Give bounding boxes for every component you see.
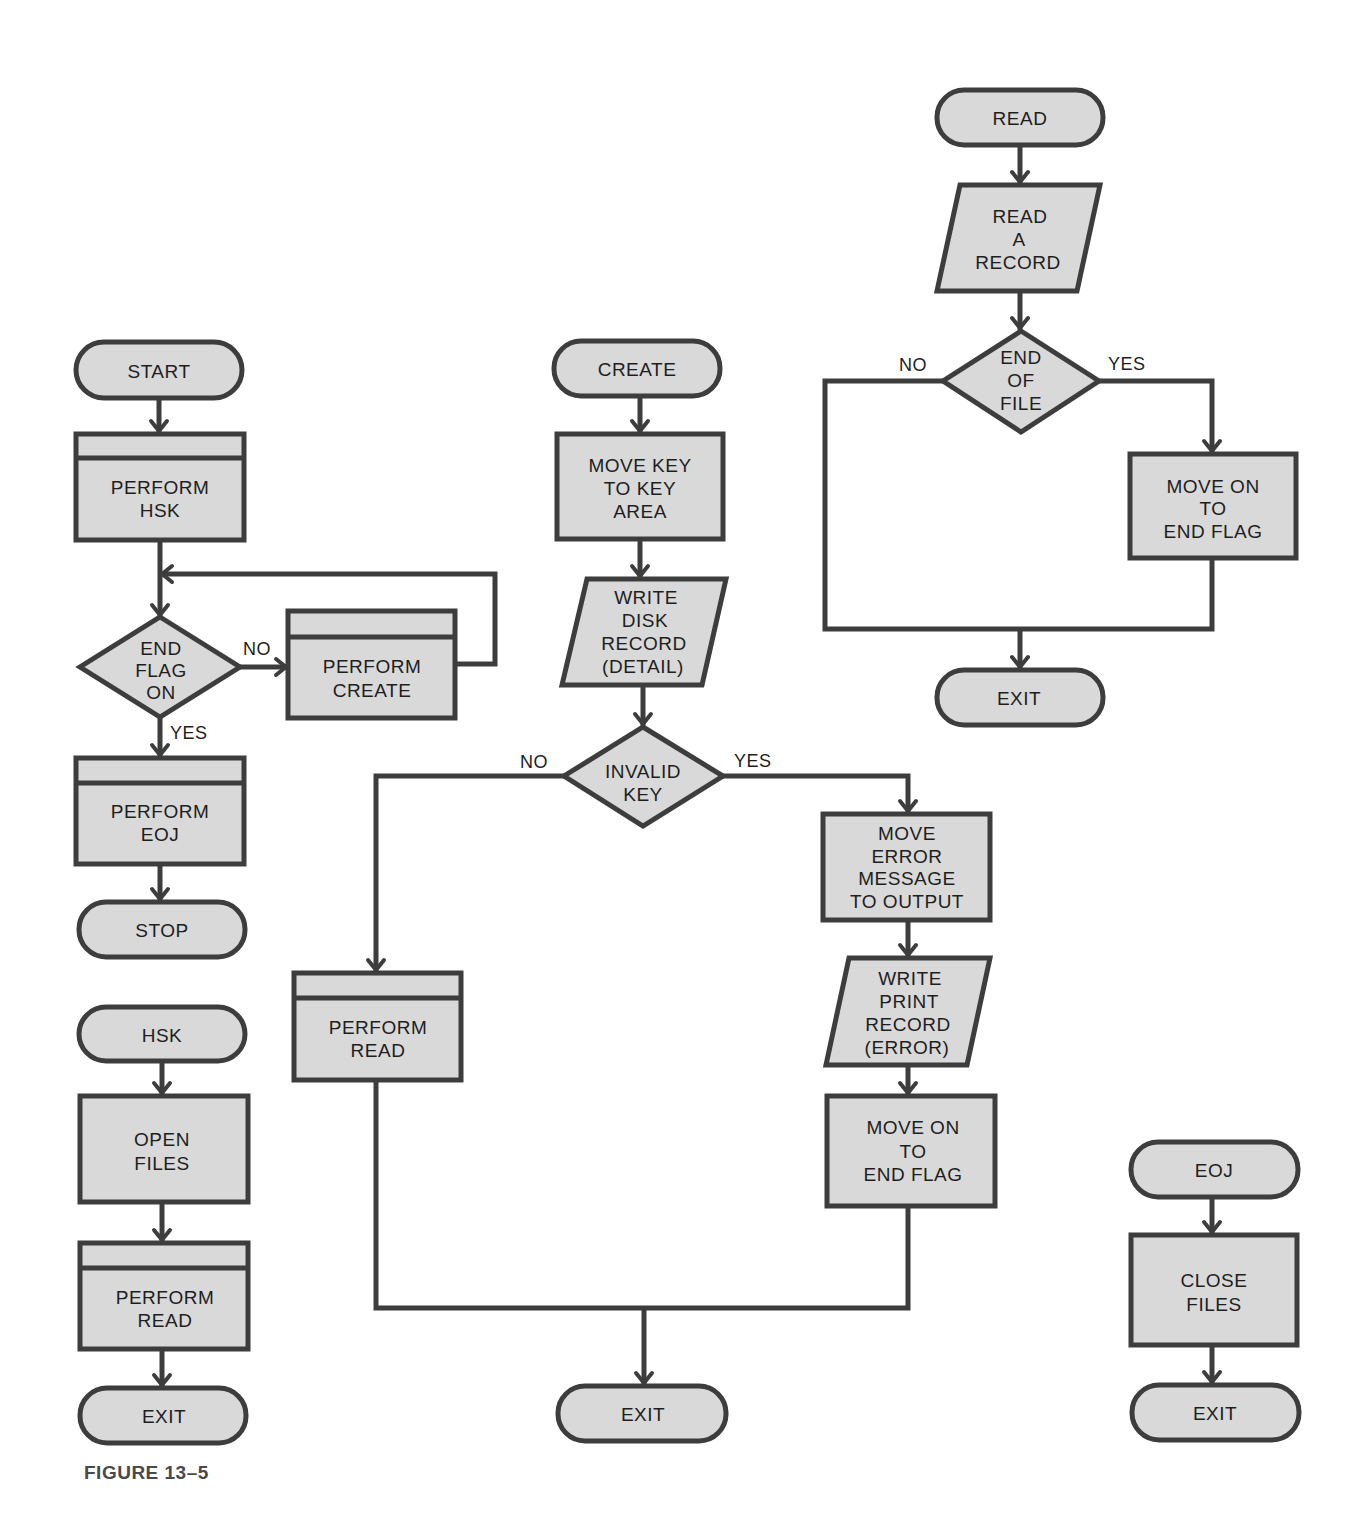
eoj-exit-label: EXIT xyxy=(1193,1403,1237,1424)
read-move-on-line-2: TO xyxy=(1199,498,1226,519)
start-label: START xyxy=(127,361,190,382)
invalid-key-decision: INVALID KEY xyxy=(564,727,723,826)
invalid-key-line-2: KEY xyxy=(623,784,663,805)
read-terminal: READ xyxy=(937,90,1103,145)
eoj-terminal: EOJ xyxy=(1131,1142,1298,1197)
end-flag-yes-label: YES xyxy=(170,723,208,743)
eoj-label: EOJ xyxy=(1195,1160,1233,1181)
hsk-perform-read-process: PERFORM READ xyxy=(80,1243,248,1349)
eoj-exit-terminal: EXIT xyxy=(1132,1385,1299,1440)
end-of-file-decision: END OF FILE xyxy=(943,331,1099,432)
read-move-on-end-flag-process: MOVE ON TO END FLAG xyxy=(1130,454,1296,558)
write-print-line-1: WRITE xyxy=(878,968,942,989)
hsk-perform-read-line-2: READ xyxy=(138,1310,193,1331)
read-record-line-2: A xyxy=(1012,229,1025,250)
invalid-key-yes-label: YES xyxy=(734,751,772,771)
move-key-process: MOVE KEY TO KEY AREA xyxy=(557,434,723,539)
create-move-on-end-flag-process: MOVE ON TO END FLAG xyxy=(827,1096,995,1206)
read-a-record-io: READ A RECORD xyxy=(937,185,1100,291)
flowchart-canvas: START PERFORM HSK END FLAG ON NO xyxy=(0,0,1372,1533)
perform-eoj-line-1: PERFORM xyxy=(111,801,210,822)
create-flow: CREATE MOVE KEY TO KEY AREA WRITE DISK R… xyxy=(294,341,995,1441)
write-disk-line-1: WRITE xyxy=(614,587,678,608)
read-move-on-line-3: END FLAG xyxy=(1163,521,1262,542)
create-perform-read-line-2: READ xyxy=(351,1040,406,1061)
move-error-line-3: MESSAGE xyxy=(858,868,955,889)
start-terminal: START xyxy=(76,342,242,398)
read-flow: READ READ A RECORD END OF FILE NO YES MO… xyxy=(825,90,1296,725)
create-label: CREATE xyxy=(598,359,677,380)
close-files-line-1: CLOSE xyxy=(1181,1270,1248,1291)
create-move-on-line-2: TO xyxy=(899,1141,926,1162)
write-print-line-4: (ERROR) xyxy=(865,1037,950,1058)
end-of-file-line-2: OF xyxy=(1007,370,1034,391)
end-of-file-no-label: NO xyxy=(899,355,927,375)
end-flag-line-1: END xyxy=(140,638,182,659)
write-print-line-3: RECORD xyxy=(865,1014,950,1035)
end-of-file-yes-label: YES xyxy=(1108,354,1146,374)
move-error-line-4: TO OUTPUT xyxy=(850,891,964,912)
end-flag-on-decision: END FLAG ON xyxy=(80,617,240,717)
perform-create-line-1: PERFORM xyxy=(323,656,422,677)
write-disk-line-4: (DETAIL) xyxy=(602,656,684,677)
create-perform-read-process: PERFORM READ xyxy=(294,973,461,1080)
open-files-process: OPEN FILES xyxy=(80,1096,248,1202)
write-disk-record-io: WRITE DISK RECORD (DETAIL) xyxy=(562,579,726,685)
create-exit-terminal: EXIT xyxy=(558,1386,726,1441)
perform-hsk-process: PERFORM HSK xyxy=(76,434,244,540)
write-disk-line-2: DISK xyxy=(622,610,668,631)
invalid-key-line-1: INVALID xyxy=(605,761,681,782)
perform-hsk-line-1: PERFORM xyxy=(111,477,210,498)
write-print-line-2: PRINT xyxy=(879,991,939,1012)
perform-eoj-process: PERFORM EOJ xyxy=(76,758,244,864)
main-flow: START PERFORM HSK END FLAG ON NO xyxy=(76,342,495,957)
create-exit-label: EXIT xyxy=(621,1404,665,1425)
hsk-label: HSK xyxy=(142,1025,183,1046)
move-error-message-process: MOVE ERROR MESSAGE TO OUTPUT xyxy=(823,814,990,920)
read-exit-terminal: EXIT xyxy=(937,670,1103,725)
invalid-key-no-label: NO xyxy=(520,752,548,772)
read-move-on-line-1: MOVE ON xyxy=(1166,476,1259,497)
hsk-flow: HSK OPEN FILES PERFORM READ EXIT xyxy=(79,1007,248,1443)
end-flag-no-label: NO xyxy=(243,639,271,659)
close-files-process: CLOSE FILES xyxy=(1131,1235,1297,1345)
write-print-record-io: WRITE PRINT RECORD (ERROR) xyxy=(826,958,990,1065)
read-exit-label: EXIT xyxy=(997,688,1041,709)
read-record-line-3: RECORD xyxy=(975,252,1060,273)
move-key-line-1: MOVE KEY xyxy=(588,455,691,476)
figure-caption: FIGURE 13–5 xyxy=(84,1462,209,1484)
move-error-line-1: MOVE xyxy=(878,823,936,844)
move-key-line-3: AREA xyxy=(613,501,667,522)
end-flag-line-3: ON xyxy=(146,682,176,703)
end-of-file-line-3: FILE xyxy=(1000,393,1042,414)
hsk-exit-terminal: EXIT xyxy=(80,1388,246,1443)
hsk-perform-read-line-1: PERFORM xyxy=(116,1287,215,1308)
end-of-file-line-1: END xyxy=(1000,347,1042,368)
close-files-line-2: FILES xyxy=(1186,1294,1241,1315)
read-label: READ xyxy=(993,108,1048,129)
stop-label: STOP xyxy=(135,920,188,941)
perform-create-line-2: CREATE xyxy=(333,680,412,701)
perform-eoj-line-2: EOJ xyxy=(141,824,179,845)
end-flag-line-2: FLAG xyxy=(135,660,187,681)
open-files-line-1: OPEN xyxy=(134,1129,190,1150)
perform-create-process: PERFORM CREATE xyxy=(288,611,455,718)
eoj-flow: EOJ CLOSE FILES EXIT xyxy=(1131,1142,1299,1440)
stop-terminal: STOP xyxy=(79,902,245,957)
create-terminal: CREATE xyxy=(554,341,720,396)
move-error-line-2: ERROR xyxy=(871,846,942,867)
read-record-line-1: READ xyxy=(993,206,1048,227)
create-perform-read-line-1: PERFORM xyxy=(329,1017,428,1038)
create-move-on-line-3: END FLAG xyxy=(863,1164,962,1185)
perform-hsk-line-2: HSK xyxy=(140,500,181,521)
hsk-exit-label: EXIT xyxy=(142,1406,186,1427)
write-disk-line-3: RECORD xyxy=(601,633,686,654)
open-files-line-2: FILES xyxy=(134,1153,189,1174)
hsk-terminal: HSK xyxy=(79,1007,245,1061)
create-move-on-line-1: MOVE ON xyxy=(866,1117,959,1138)
move-key-line-2: TO KEY xyxy=(604,478,676,499)
